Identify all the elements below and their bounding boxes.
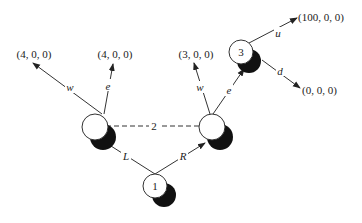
edge-label-L: L [122,150,129,162]
payoff-d: (0, 0, 0) [302,84,337,97]
node-right [199,114,233,150]
edge-label-right-w: w [196,81,204,93]
payoff-u: (100, 0, 0) [298,11,344,24]
edge-label-R: R [179,150,187,162]
payoff-right-w: (3, 0, 0) [179,48,214,61]
edge-u [249,18,297,43]
node-1-label: 1 [152,180,158,192]
payoff-left-e: (4, 0, 0) [98,48,133,61]
edge-label-d: d [277,65,283,77]
node-3: 3 [229,40,261,73]
node-left [82,114,116,150]
node-1: 1 [143,174,176,207]
edge-label-u: u [275,27,281,39]
info-set-label: 2 [151,120,157,132]
edge-label-left-w: w [66,81,74,93]
game-tree-diagram: 3 1 w e w e u d L R 2 (4, 0, 0) (4, 0, 0… [0,0,362,223]
node-3-label: 3 [238,46,244,58]
payoff-left-w: (4, 0, 0) [17,48,52,61]
edge-label-right-e: e [227,84,232,96]
edge-label-left-e: e [106,80,111,92]
